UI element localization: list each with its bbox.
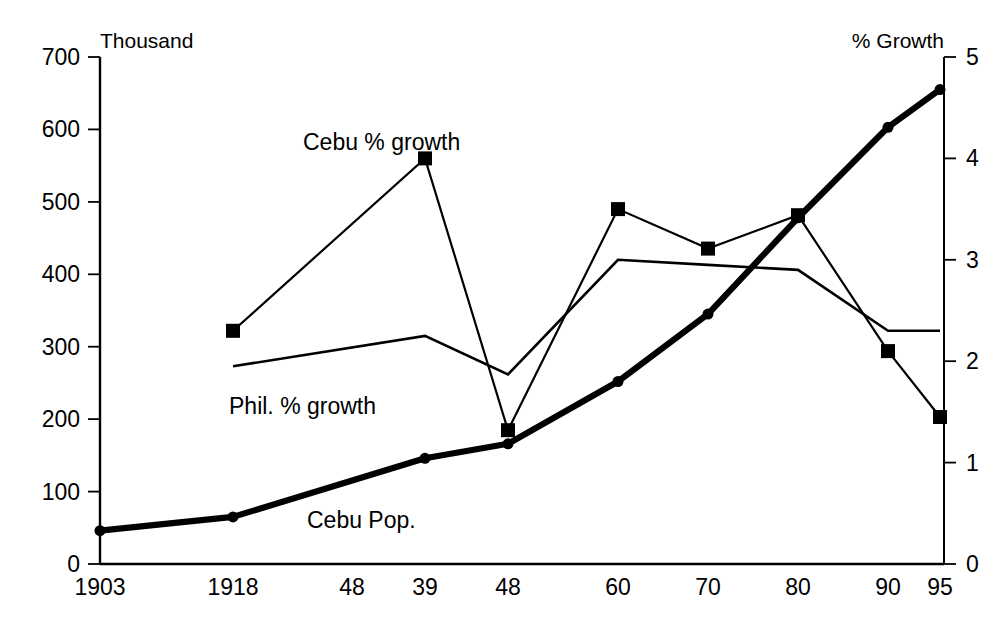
circle-data-marker <box>95 525 106 536</box>
x-tick-label: 1918 <box>207 574 258 600</box>
cebu-pop-line <box>100 90 940 531</box>
population-growth-line-chart: Thousand % Growth 0 100 200 300 400 500 <box>0 0 1007 635</box>
x-tick-label: 39 <box>412 574 438 600</box>
circle-data-marker <box>703 309 714 320</box>
x-tick-label: 48 <box>495 574 521 600</box>
right-tick-label: 4 <box>966 145 979 171</box>
circle-data-marker <box>883 122 894 133</box>
square-data-marker <box>701 242 715 256</box>
square-data-marker <box>226 324 240 338</box>
square-data-marker <box>611 202 625 216</box>
right-axis-tick-labels: 0 1 2 3 4 5 <box>966 44 979 577</box>
right-tick-label: 2 <box>966 348 979 374</box>
x-tick-label: 60 <box>605 574 631 600</box>
circle-data-marker <box>935 84 946 95</box>
cebu-pop-markers <box>95 84 946 536</box>
right-tick-label: 0 <box>966 551 979 577</box>
series-phil-growth <box>233 260 940 375</box>
circle-data-marker <box>228 511 239 522</box>
circle-data-marker <box>503 438 514 449</box>
circle-data-marker <box>793 212 804 223</box>
series-annotations: Cebu % growth Phil. % growth Cebu Pop. <box>229 129 460 533</box>
chart-container: Thousand % Growth 0 100 200 300 400 500 <box>0 0 1007 635</box>
right-axis-unit-label: % Growth <box>852 29 944 52</box>
annotation-cebu-pop: Cebu Pop. <box>307 507 416 533</box>
circle-data-marker <box>613 376 624 387</box>
left-tick-label: 200 <box>42 406 80 432</box>
left-axis-unit-label: Thousand <box>100 29 193 52</box>
annotation-phil-growth: Phil. % growth <box>229 393 376 419</box>
square-data-marker <box>501 423 515 437</box>
right-tick-label: 5 <box>966 44 979 70</box>
x-axis-tick-labels: 1903 1918 48 39 48 60 70 80 90 95 <box>74 574 952 600</box>
square-data-marker <box>933 410 947 424</box>
left-tick-label: 100 <box>42 479 80 505</box>
x-tick-label: 95 <box>927 574 953 600</box>
square-data-marker <box>881 344 895 358</box>
phil-growth-line <box>233 260 940 375</box>
x-tick-label: 90 <box>875 574 901 600</box>
plot-axes <box>100 57 944 564</box>
left-tick-label: 300 <box>42 334 80 360</box>
left-tick-label: 600 <box>42 116 80 142</box>
right-tick-label: 3 <box>966 247 979 273</box>
x-tick-label: 1903 <box>74 574 125 600</box>
x-tick-label: 70 <box>695 574 721 600</box>
left-axis-tick-labels: 0 100 200 300 400 500 600 700 <box>42 44 80 577</box>
left-tick-label: 400 <box>42 261 80 287</box>
left-axis-ticks <box>88 57 100 564</box>
x-tick-label: 48 <box>339 574 365 600</box>
right-tick-label: 1 <box>966 450 979 476</box>
series-cebu-pop <box>95 84 946 536</box>
left-tick-label: 500 <box>42 189 80 215</box>
right-axis-ticks <box>944 57 956 564</box>
circle-data-marker <box>420 453 431 464</box>
annotation-cebu-growth: Cebu % growth <box>303 129 460 155</box>
x-tick-label: 80 <box>785 574 811 600</box>
left-tick-label: 700 <box>42 44 80 70</box>
